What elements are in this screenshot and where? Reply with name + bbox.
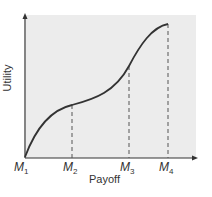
tick-label-m3: M3 (120, 160, 134, 176)
tick-label-m1: M1 (14, 160, 28, 176)
tick-label-m4: M4 (159, 160, 173, 176)
y-axis-title: Utility (1, 65, 13, 92)
tick-label-m2: M2 (63, 160, 77, 176)
utility-chart (0, 0, 212, 197)
x-axis-title: Payoff (89, 173, 120, 185)
plot-area (26, 15, 196, 158)
